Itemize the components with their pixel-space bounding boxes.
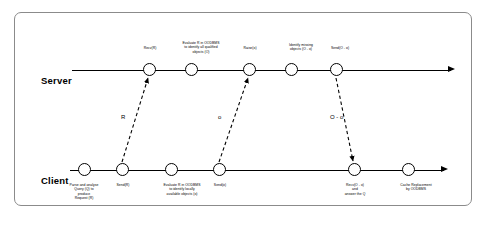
diagram-panel: Server Recv(R) Evaluate R in OODBMS to i…: [14, 12, 472, 206]
server-node-evaluate-r-oodbms[interactable]: [185, 63, 198, 76]
client-node-parse-analyse[interactable]: [78, 163, 91, 176]
server-timeline-axis: [72, 70, 451, 71]
client-node-send-small-o[interactable]: [213, 163, 226, 176]
message-arrow-o: [219, 78, 248, 162]
server-node-identify-missing[interactable]: [285, 63, 298, 76]
server-node-label-send-o-minus-o: Send(O - o): [310, 46, 370, 50]
message-label-o: o: [218, 114, 221, 120]
client-node-send-r[interactable]: [116, 163, 129, 176]
client-node-label-send-r: Send(R): [99, 183, 147, 187]
server-node-raise-o[interactable]: [243, 63, 256, 76]
diagram-canvas: Server Recv(R) Evaluate R in OODBMS to i…: [0, 0, 492, 236]
client-node-label-send-small-o: Send(o): [196, 183, 244, 187]
message-label-r: R: [121, 114, 125, 120]
client-axis-arrowhead-icon: [441, 166, 448, 172]
client-node-evaluate-r-locally[interactable]: [165, 163, 178, 176]
message-arrow-r: [122, 78, 148, 162]
client-node-recv-o-minus-o[interactable]: [348, 163, 361, 176]
server-axis-arrowhead-icon: [448, 66, 455, 72]
client-node-label-cache-replacement: Cache Replacement by OODBMS: [377, 183, 455, 192]
message-label-o-minus-o: O - o: [330, 114, 343, 120]
lane-label-server: Server: [41, 75, 72, 86]
client-node-label-recv-o-minus-o: Recv(O - o) and answer the Q: [327, 183, 383, 196]
server-node-recv-r[interactable]: [143, 63, 156, 76]
message-arrows-layer: [15, 13, 473, 207]
server-node-send-o-minus-o[interactable]: [330, 63, 343, 76]
client-node-cache-replacement[interactable]: [402, 163, 415, 176]
